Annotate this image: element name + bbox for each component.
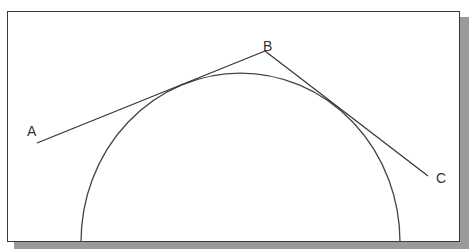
point-label-b: B	[263, 38, 272, 54]
tangent-arc	[81, 73, 400, 242]
point-label-a: A	[27, 123, 37, 139]
diagram-canvas: A B C	[0, 0, 471, 251]
line-b-c	[265, 51, 428, 176]
line-a-b	[37, 51, 265, 143]
point-label-c: C	[436, 170, 446, 186]
